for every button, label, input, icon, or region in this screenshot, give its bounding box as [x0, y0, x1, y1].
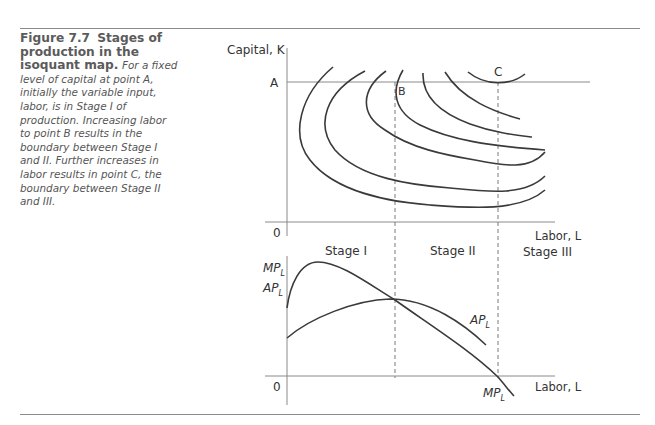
ap-curve-subscript: L [485, 321, 489, 330]
top-labor-axis-label: Labor, L [535, 229, 582, 243]
bottom-origin-label: 0 [273, 380, 281, 394]
ap-curve [287, 299, 486, 345]
bottom-labor-axis-label: Labor, L [535, 380, 582, 394]
capital-axis-label: Capital, K [227, 43, 286, 57]
ap-curve-label: APL [469, 313, 490, 330]
ap-axis-label: APL [262, 281, 283, 298]
stage-2-label: Stage II [430, 244, 476, 258]
isoquant-6 [445, 72, 520, 119]
mp-curve-subscript: L [501, 394, 505, 403]
isoquant-panel: Capital, K A B C 0 Labor, L [227, 43, 590, 378]
stage-3-label: Stage III [523, 245, 572, 259]
figure-chart: Capital, K A B C 0 Labor, L Stage I Stag… [0, 0, 655, 425]
mp-curve-text: MP [483, 386, 501, 400]
top-origin-label: 0 [273, 226, 281, 240]
isoquant-1 [300, 67, 545, 207]
label-b: B [398, 85, 406, 98]
label-a: A [270, 76, 279, 90]
mp-axis-text: MP [263, 261, 281, 275]
product-curves-panel: MPL APL APL MPL 0 Labor, L [262, 256, 582, 405]
ap-axis-text: AP [262, 281, 279, 295]
mp-curve-label: MPL [483, 386, 505, 403]
mp-axis-label: MPL [263, 261, 285, 278]
ap-curve-text: AP [469, 313, 486, 327]
mp-axis-subscript: L [281, 269, 285, 278]
stage-1-label: Stage I [325, 244, 367, 258]
label-c: C [494, 65, 502, 79]
ap-axis-subscript: L [278, 289, 282, 298]
isoquant-5 [423, 73, 532, 137]
